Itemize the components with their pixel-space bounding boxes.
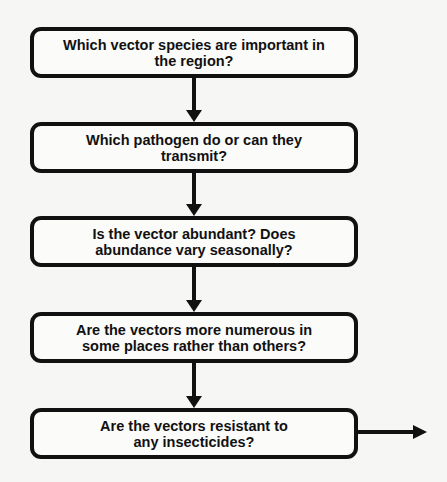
arrow-right-icon <box>413 425 427 439</box>
node-label: Which vector species are important in th… <box>62 37 326 69</box>
arrow-down-icon <box>186 300 202 312</box>
node-label: Is the vector abundant? Does abundance v… <box>62 226 326 258</box>
arrow-down-icon <box>186 110 202 122</box>
node-label: Are the vectors resistant to any insecti… <box>94 418 294 450</box>
flow-node-pathogen: Which pathogen do or can they transmit? <box>30 122 358 173</box>
flow-node-vector-species: Which vector species are important in th… <box>30 27 358 78</box>
node-label: Which pathogen do or can they transmit? <box>62 132 326 164</box>
flow-node-resistance: Are the vectors resistant to any insecti… <box>30 408 358 459</box>
arrow-down-icon <box>186 396 202 408</box>
connector-line <box>192 362 196 398</box>
connector-line-right <box>358 430 414 434</box>
connector-line <box>192 266 196 302</box>
node-label: Are the vectors more numerous in some pl… <box>62 322 326 354</box>
connector-line <box>192 78 196 112</box>
flow-node-distribution: Are the vectors more numerous in some pl… <box>30 312 358 363</box>
flow-node-abundance: Is the vector abundant? Does abundance v… <box>30 216 358 267</box>
arrow-down-icon <box>186 204 202 216</box>
connector-line <box>192 172 196 206</box>
